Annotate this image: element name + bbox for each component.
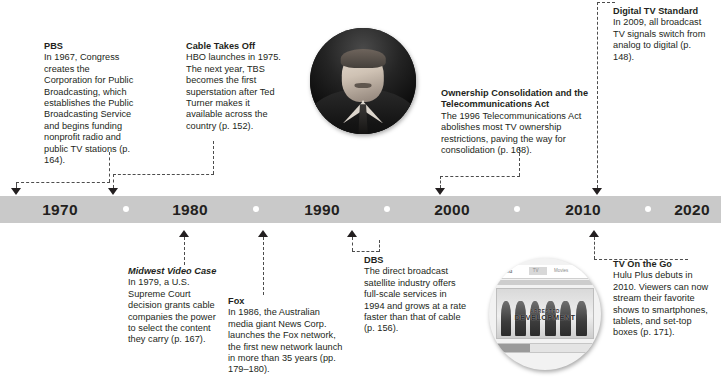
event-body-tv-on-the-go: Hulu Plus debuts in 2010. Viewers can no… — [613, 270, 716, 338]
connector-pbs-vertical — [109, 152, 110, 182]
connector-cable-vertical — [213, 141, 214, 174]
arrow-midwest-video-case — [179, 230, 189, 237]
hulu-progress-bar — [496, 343, 595, 353]
event-title-dbs: DBS — [364, 255, 468, 266]
connector-cable-drop — [113, 174, 114, 188]
event-body-pbs: In 1967, Congress creates the Corporatio… — [44, 52, 140, 166]
event-card-digital-tv-standard: Digital TV Standard In 2009, all broadca… — [613, 6, 714, 63]
event-title-midwest-video-case: Midwest Video Case — [128, 266, 222, 277]
portrait-mustache — [355, 83, 372, 88]
connector-fox-vertical — [263, 237, 264, 295]
cast-figure — [576, 301, 587, 336]
event-card-pbs: PBS In 1967, Congress creates the Corpor… — [44, 41, 140, 166]
timeline-separator-dot — [253, 206, 259, 212]
event-card-fox: Fox In 1986, the Australian media giant … — [228, 296, 346, 376]
event-card-ownership-consolidation: Ownership Consolidation and the Telecomm… — [441, 88, 591, 156]
connector-tvonthego-horizontal — [594, 259, 688, 260]
hulu-logo: hulu — [500, 268, 512, 274]
decade-label-2010: 2010 — [565, 198, 601, 221]
hulu-footer: Help Share — [500, 357, 590, 365]
timeline-separator-dot — [645, 206, 651, 212]
portrait-hair — [341, 49, 386, 68]
event-title-digital-tv-standard: Digital TV Standard — [613, 6, 714, 17]
connector-dbs-horizontal — [352, 251, 379, 252]
connector-ownership-horizontal — [440, 176, 520, 177]
event-body-fox: In 1986, the Australian media giant News… — [228, 307, 346, 375]
event-body-digital-tv-standard: In 2009, all broadcast TV signals switch… — [613, 17, 714, 63]
arrow-fox — [258, 230, 268, 237]
connector-digital-horizontal — [597, 2, 615, 3]
timeline-infographic: 1970 1980 1990 2000 2010 2020 PBS In 196… — [0, 0, 721, 389]
arrow-tv-on-the-go — [589, 230, 599, 237]
connector-pbs-horizontal — [16, 182, 110, 183]
connector-dbs-stub — [379, 240, 380, 252]
decade-label-2020: 2020 — [674, 198, 710, 221]
event-title-ownership-consolidation: Ownership Consolidation and the Telecomm… — [441, 88, 591, 111]
connector-digital-vertical — [597, 2, 598, 188]
event-title-cable-takes-off: Cable Takes Off — [186, 41, 285, 52]
timeline-separator-dot — [384, 206, 390, 212]
cast-figure — [501, 301, 512, 336]
event-card-cable-takes-off: Cable Takes Off HBO launches in 1975. Th… — [186, 41, 285, 132]
arrow-digital-tv-standard — [592, 188, 602, 195]
connector-cable-horizontal — [113, 174, 214, 175]
arrow-cable-takes-off — [108, 188, 118, 195]
hulu-nav-item-tv: TV — [533, 268, 539, 273]
hulu-plus-screenshot: hulu TV Movies ARRESTED DEVELOPMENT Help… — [489, 258, 601, 370]
hulu-show-still: ARRESTED DEVELOPMENT — [496, 288, 595, 338]
arrow-ownership-consolidation — [435, 188, 445, 195]
connector-midwest-vertical — [184, 237, 185, 265]
timeline-separator-dot — [123, 206, 129, 212]
hulu-progress-fill — [497, 344, 530, 352]
hulu-footer-share: Share — [579, 358, 590, 363]
event-body-midwest-video-case: In 1979, a U.S. Supreme Court decision g… — [128, 277, 222, 345]
event-body-cable-takes-off: HBO launches in 1975. The next year, TBS… — [186, 52, 285, 132]
hulu-nav-item-movies: Movies — [554, 268, 568, 273]
arrow-pbs — [11, 188, 21, 195]
event-card-midwest-video-case: Midwest Video Case In 1979, a U.S. Supre… — [128, 266, 222, 346]
event-title-tv-on-the-go: TV On the Go — [613, 259, 716, 270]
connector-tvonthego-vertical — [594, 237, 595, 259]
decade-label-2000: 2000 — [434, 198, 470, 221]
event-card-dbs: DBS The direct broadcast satellite indus… — [364, 255, 468, 335]
event-body-ownership-consolidation: The 1996 Telecommunications Act abolishe… — [441, 111, 591, 157]
timeline-bar — [0, 196, 721, 223]
ted-turner-portrait — [310, 28, 416, 134]
decade-label-1990: 1990 — [304, 198, 340, 221]
arrow-dbs — [347, 230, 357, 237]
hulu-footer-help: Help — [500, 358, 509, 363]
event-title-pbs: PBS — [44, 41, 140, 52]
timeline-separator-dot — [514, 206, 520, 212]
decade-label-1970: 1970 — [42, 198, 78, 221]
event-title-fox: Fox — [228, 296, 346, 307]
event-body-dbs: The direct broadcast satellite industry … — [364, 266, 468, 334]
show-title-development: DEVELOPMENT — [514, 313, 575, 322]
event-card-tv-on-the-go: TV On the Go Hulu Plus debuts in 2010. V… — [613, 259, 716, 339]
connector-ownership-drop — [440, 176, 441, 188]
decade-label-1980: 1980 — [172, 198, 208, 221]
connector-ownership-vertical — [519, 148, 520, 176]
connector-dbs-vertical — [352, 237, 353, 251]
hulu-content-strip — [493, 280, 596, 284]
